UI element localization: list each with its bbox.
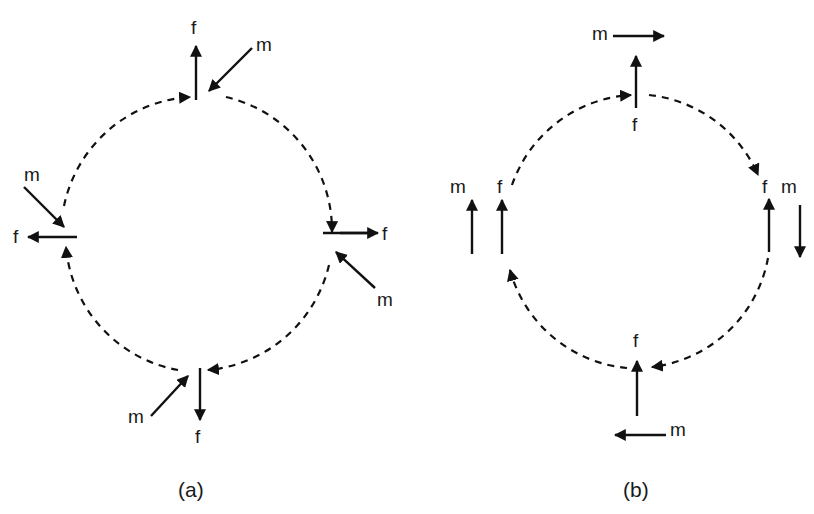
m-arrow-down-right-icon [24,187,64,227]
position-left-a: f m [13,164,77,247]
f-label: f [632,114,638,135]
arc-top-to-right [649,95,758,175]
panel-caption-b: (b) [623,478,649,501]
m-label: m [377,289,393,310]
f-label: f [382,223,388,244]
m-label: m [128,406,144,427]
f-label: f [195,426,201,447]
diagram-canvas: f m f m f m f m (a) [0,0,814,514]
position-bottom-a: f m [128,368,201,447]
f-label: f [497,176,503,197]
position-top-a: f m [191,17,272,100]
arc-left-to-top [64,97,190,206]
f-label: f [13,226,19,247]
arc-bottom-to-left [510,270,627,368]
m-label: m [450,176,466,197]
orbit-dashed-arcs [64,97,332,370]
panel-a: f m f m f m f m (a) [13,17,393,501]
position-top-b: f m [592,23,664,135]
m-arrow-up-left-icon [336,252,375,288]
f-label: f [633,330,639,351]
arc-right-to-bottom [652,258,768,367]
m-label: m [256,34,272,55]
position-left-b: f m [450,176,503,254]
arc-bottom-to-left [66,247,178,370]
orbit-dashed-arcs [510,95,768,368]
panel-b: f m f m f m f m (b) [450,23,800,501]
m-label: m [670,419,686,440]
m-label: m [781,176,797,197]
position-right-a: f m [323,223,393,310]
arc-left-to-top [512,95,631,185]
m-arrow-up-right-icon [151,376,188,416]
m-arrow-down-left-icon [209,48,252,91]
f-label: f [762,176,768,197]
m-label: m [24,164,40,185]
panel-caption-a: (a) [178,478,204,501]
f-label: f [191,17,197,38]
position-bottom-b: f m [615,330,686,440]
arc-right-to-bottom [208,265,329,370]
position-right-b: f m [762,176,800,257]
arc-top-to-right [226,97,332,232]
m-label: m [592,23,608,44]
